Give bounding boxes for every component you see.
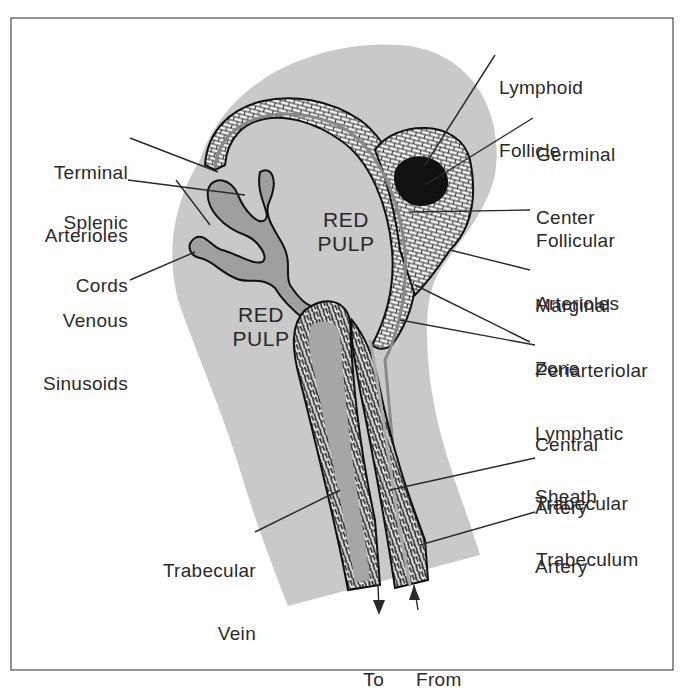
label-venous-sinusoids: Venous Sinusoids <box>20 268 128 415</box>
label-red-pulp-upper: RED PULP <box>310 208 382 256</box>
label-red-pulp-lower: RED PULP <box>225 303 297 351</box>
label-trabeculum: Trabeculum <box>536 507 639 591</box>
label-trabecular-vein: Trabecular Vein <box>140 518 256 665</box>
label-from-hilus: From Hilus <box>416 627 462 691</box>
label-to-hilus: To Hilus <box>318 627 384 691</box>
